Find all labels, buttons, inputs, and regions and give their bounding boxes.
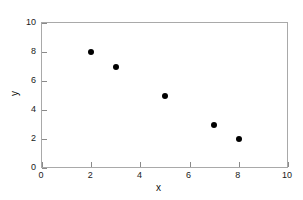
y-axis-tick: [42, 168, 47, 169]
y-axis-tick: [42, 110, 47, 111]
data-point: [162, 93, 168, 99]
data-point: [88, 49, 94, 55]
y-axis-tick-label: 6: [12, 75, 36, 86]
data-point: [113, 64, 119, 70]
y-axis-label-text: y: [9, 91, 20, 96]
x-axis-label: x: [0, 182, 303, 193]
x-axis-tick: [288, 162, 289, 167]
x-axis-tick-label: 10: [275, 170, 299, 181]
data-point: [211, 122, 217, 128]
x-axis-tick: [140, 162, 141, 167]
x-axis-tick-label: 6: [177, 170, 201, 181]
y-axis-tick: [42, 81, 47, 82]
x-axis-tick: [190, 162, 191, 167]
x-axis-tick-label: 8: [226, 170, 250, 181]
x-axis-tick: [42, 162, 43, 167]
x-axis-tick: [239, 162, 240, 167]
x-axis-tick-label: 2: [78, 170, 102, 181]
x-axis-tick: [91, 162, 92, 167]
x-axis-tick-label: 4: [127, 170, 151, 181]
y-axis-tick-label: 4: [12, 104, 36, 115]
y-axis-tick-label: 0: [12, 162, 36, 173]
plot-area: [41, 22, 288, 168]
figure: x y 02468100246810: [0, 0, 303, 200]
y-axis-tick: [42, 23, 47, 24]
data-point: [236, 136, 242, 142]
y-axis-tick: [42, 139, 47, 140]
x-axis-label-text: x: [156, 182, 161, 193]
y-axis-tick-label: 8: [12, 46, 36, 57]
y-axis-tick: [42, 52, 47, 53]
y-axis-tick-label: 10: [12, 17, 36, 28]
y-axis-tick-label: 2: [12, 133, 36, 144]
